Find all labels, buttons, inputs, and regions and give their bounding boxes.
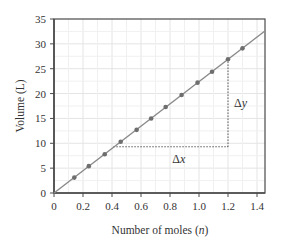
delta-x-label: Δx [172, 152, 186, 166]
x-tick-label: 0 [51, 200, 57, 212]
data-point [118, 139, 123, 144]
y-tick-label: 0 [41, 187, 47, 199]
x-tick-label: 0.4 [105, 200, 119, 212]
x-tick-label: 0.2 [76, 200, 90, 212]
y-tick-label: 30 [35, 38, 47, 50]
x-tick-label: 1.2 [221, 200, 235, 212]
data-point [240, 46, 245, 51]
data-point [210, 69, 215, 74]
axis-ticks: 0510152025303500.20.40.60.81.01.21.4 [35, 13, 264, 212]
y-tick-label: 25 [35, 63, 47, 75]
x-axis-title: Number of moles (n) [112, 224, 209, 237]
data-point [102, 152, 107, 157]
data-point [72, 175, 77, 180]
data-point [195, 80, 200, 85]
data-point [179, 93, 184, 98]
trend-line [54, 32, 264, 193]
data-point [87, 164, 92, 169]
x-tick-label: 1.4 [250, 200, 264, 212]
y-tick-label: 15 [35, 112, 47, 124]
y-tick-label: 10 [35, 137, 47, 149]
x-tick-label: 1.0 [192, 200, 206, 212]
series [54, 32, 264, 193]
delta-y-label: Δy [234, 96, 248, 110]
y-tick-label: 5 [41, 162, 47, 174]
data-point [149, 116, 154, 121]
chart: 0510152025303500.20.40.60.81.01.21.4 ΔxΔ… [0, 0, 281, 242]
x-tick-label: 0.6 [134, 200, 148, 212]
data-point [163, 105, 168, 110]
y-tick-label: 35 [35, 13, 47, 25]
x-tick-label: 0.8 [163, 200, 177, 212]
data-point [226, 57, 231, 62]
y-axis-title: Volume (L) [14, 79, 27, 132]
y-tick-label: 20 [35, 88, 47, 100]
data-point [134, 128, 139, 133]
